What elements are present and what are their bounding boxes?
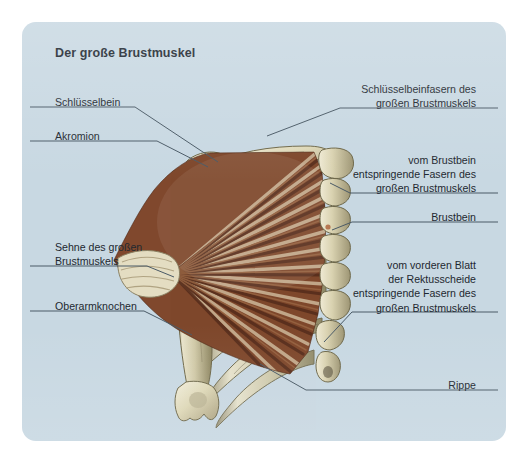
label-sternum: Brustbein [266, 210, 476, 224]
anatomy-figure-panel: Der große Brustmuskel [22, 22, 506, 441]
label-humerus: Oberarmknochen [55, 299, 137, 313]
label-sternal-fibers: vom Brustbein entspringende Fasern des g… [266, 153, 476, 196]
label-pec-tendon: Sehne des großen Brustmuskels [55, 240, 142, 268]
label-acromion: Akromion [55, 129, 100, 143]
label-rib: Rippe [266, 378, 476, 392]
label-rectus-fibers: vom vorderen Blatt der Rektusscheide ent… [261, 258, 476, 315]
label-clavicle: Schlüsselbein [55, 95, 120, 109]
label-clavicular-fibers: Schlüsselbeinfasern des großen Brustmusk… [266, 82, 476, 110]
